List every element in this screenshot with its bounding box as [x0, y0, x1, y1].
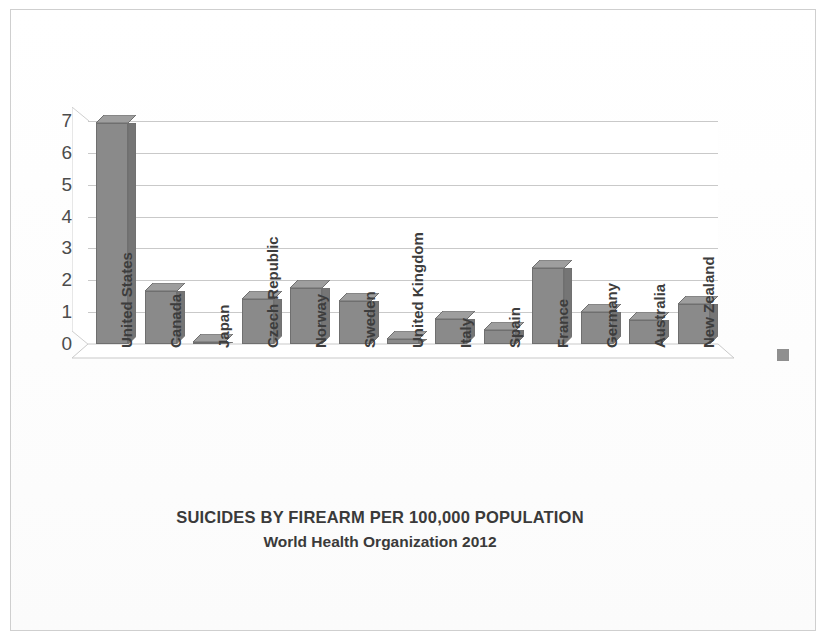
x-axis-tick: United Kingdom [395, 348, 411, 498]
y-axis-tick-label: 0 [44, 334, 72, 353]
x-axis-tick: France [540, 348, 556, 498]
bar-top-face [532, 260, 564, 268]
x-axis-tick-label: Australia [651, 284, 668, 348]
x-axis-tick: Australia [637, 348, 653, 498]
x-axis-tick: Italy [443, 348, 459, 498]
y-axis-tick-label: 5 [44, 175, 72, 194]
title-block: SUICIDES BY FIREARM PER 100,000 POPULATI… [0, 508, 760, 551]
x-axis-tick: New Zealand [686, 348, 702, 498]
bar-top-face [145, 283, 177, 291]
x-axis-category-labels: United StatesCanadaJapanCzech RepublicNo… [88, 348, 718, 498]
chart-subtitle: World Health Organization 2012 [0, 533, 760, 551]
x-axis-tick-label: Norway [312, 294, 329, 348]
x-axis-tick-label: Germany [603, 283, 620, 348]
plot-left-wall [72, 107, 89, 345]
x-axis-tick: Germany [589, 348, 605, 498]
x-axis-tick-label: Canada [167, 294, 184, 348]
x-axis-tick: Czech Republic [250, 348, 266, 498]
bar-top-face [96, 115, 128, 123]
y-axis-tick-label: 7 [44, 111, 72, 130]
x-axis-tick: Japan [201, 348, 217, 498]
x-axis-tick-label: Sweden [361, 291, 378, 348]
x-axis-tick-label: United States [118, 252, 135, 348]
x-axis-tick: Spain [492, 348, 508, 498]
chart-title: SUICIDES BY FIREARM PER 100,000 POPULATI… [0, 508, 760, 527]
y-axis-tick-label: 2 [44, 270, 72, 289]
x-axis-tick-label: Spain [506, 307, 523, 348]
x-axis-tick-label: Czech Republic [264, 236, 281, 348]
bar-top-face [290, 280, 322, 288]
x-axis-tick: Canada [153, 348, 169, 498]
x-axis-tick-label: Italy [457, 318, 474, 348]
x-axis-tick-label: United Kingdom [409, 232, 426, 348]
y-axis-tick-label: 1 [44, 302, 72, 321]
bar-chart: 76543210 United StatesCanadaJapanCzech R… [0, 0, 826, 639]
y-axis-tick-label: 3 [44, 238, 72, 257]
y-axis-tick-label: 4 [44, 207, 72, 226]
x-axis-tick-label: Japan [215, 305, 232, 348]
x-axis-tick: United States [104, 348, 120, 498]
x-axis-tick-label: France [554, 299, 571, 348]
y-axis-tick-label: 6 [44, 143, 72, 162]
x-axis-tick-label: New Zealand [700, 256, 717, 348]
x-axis-tick: Sweden [347, 348, 363, 498]
x-axis-tick: Norway [298, 348, 314, 498]
legend-marker-swatch [777, 349, 789, 361]
